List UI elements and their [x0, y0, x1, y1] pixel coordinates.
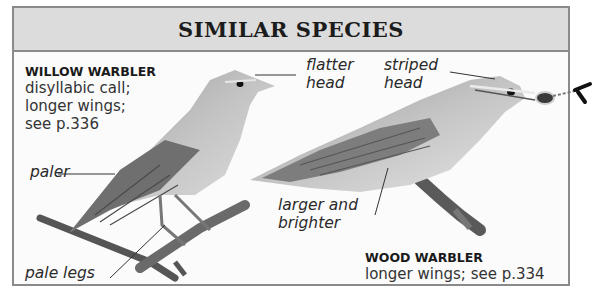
wood-warbler-description: longer wings; see p.334	[365, 265, 545, 283]
wood-warbler-name: WOOD WARBLER	[365, 250, 483, 265]
label-pale-legs: pale legs	[25, 264, 95, 282]
striped-head-pointer	[450, 72, 495, 79]
label-larger-and-brighter: larger and brighter	[278, 196, 358, 232]
wood-warbler-bird	[250, 76, 590, 192]
label-paler: paler	[30, 163, 70, 181]
label-flatter-head: flatter head	[306, 56, 354, 92]
label-striped-head: striped head	[384, 56, 438, 92]
wood-branch	[420, 180, 480, 230]
bird-illustrations	[0, 0, 594, 294]
willow-warbler-name: WILLOW WARBLER	[25, 64, 156, 79]
willow-warbler-description: disyllabic call; longer wings; see p.336	[25, 79, 130, 133]
